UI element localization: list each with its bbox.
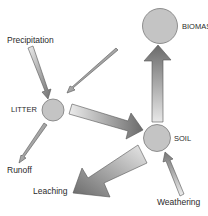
- label-weathering: Weathering: [157, 198, 200, 207]
- arrow-soil-to-biomass: [144, 45, 171, 122]
- arrow-litter-to-runoff: [19, 123, 47, 163]
- node-litter: [42, 99, 64, 121]
- label-runoff: Runoff: [7, 166, 32, 175]
- label-precipitation: Precipitation: [7, 36, 54, 45]
- label-soil: SOIL: [174, 135, 191, 143]
- arrow-weathering-to-soil: [163, 152, 184, 196]
- label-litter: LITTER: [11, 106, 37, 114]
- arrow-soil-to-leaching: [73, 145, 147, 197]
- node-soil: [144, 125, 171, 152]
- arrow-litter-to-soil: [69, 104, 143, 139]
- arrow-biomass-to-litter: [67, 48, 118, 93]
- label-leaching: Leaching: [33, 187, 68, 196]
- label-biomass: BIOMASS: [182, 23, 208, 31]
- node-biomass: [143, 9, 178, 44]
- arrow-precipitation-to-litter: [28, 46, 51, 99]
